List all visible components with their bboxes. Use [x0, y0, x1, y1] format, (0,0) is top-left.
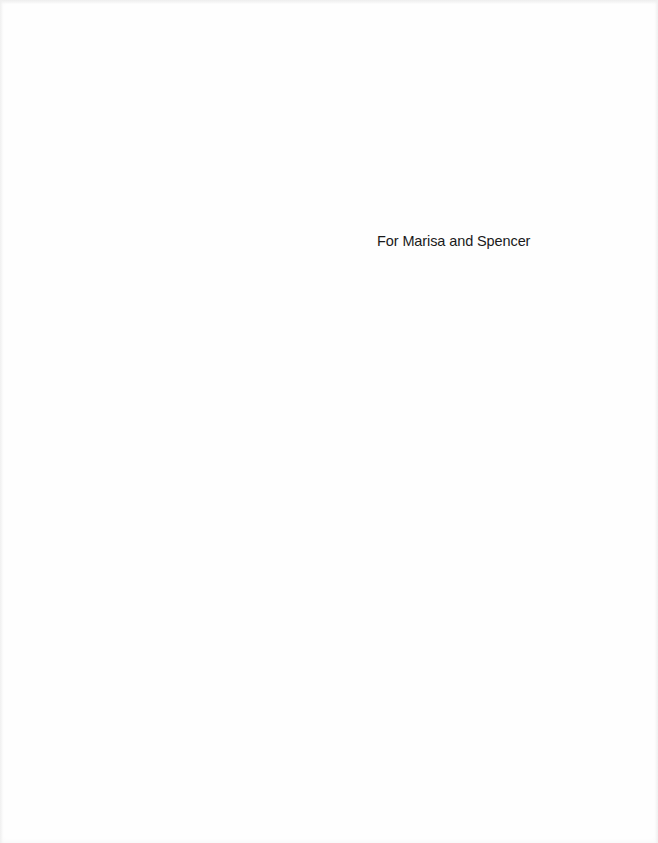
scan-left-edge	[0, 0, 3, 843]
scan-top-edge	[0, 0, 658, 4]
book-page: For Marisa and Spencer	[0, 0, 658, 843]
dedication-text: For Marisa and Spencer	[377, 233, 530, 249]
